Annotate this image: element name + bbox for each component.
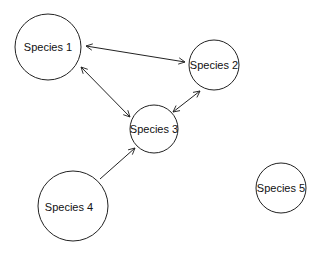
node-species-1: Species 1: [15, 14, 81, 80]
node-label: Species 3: [130, 123, 178, 135]
edge-species1-species2: [86, 46, 185, 62]
node-species-4: Species 4: [38, 171, 108, 241]
node-label: Species 5: [257, 182, 305, 194]
edge-species3-species2: [173, 91, 200, 112]
node-label: Species 1: [24, 41, 72, 53]
species-network-diagram: Species 1 Species 2 Species 3 Species 4 …: [0, 0, 318, 254]
node-species-2: Species 2: [189, 40, 239, 90]
edge-species4-species3: [100, 148, 135, 179]
node-species-3: Species 3: [130, 105, 178, 153]
node-label: Species 2: [190, 59, 238, 71]
node-label: Species 4: [45, 201, 93, 213]
edge-species1-species3: [81, 67, 130, 117]
node-species-5: Species 5: [256, 163, 306, 213]
